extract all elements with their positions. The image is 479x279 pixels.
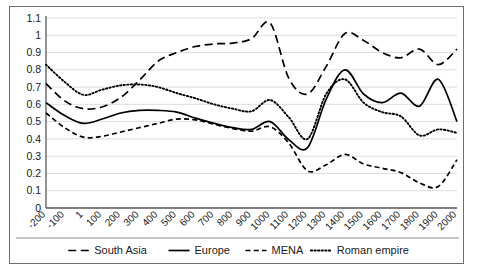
x-tick-label: 1300 bbox=[304, 208, 328, 232]
series-line-mena bbox=[46, 113, 457, 188]
x-tick-label: 1600 bbox=[360, 208, 384, 232]
y-tick-label: 0.5 bbox=[26, 115, 41, 127]
x-tick-label: 700 bbox=[196, 208, 216, 228]
legend-label-europe[interactable]: Europe bbox=[195, 244, 230, 256]
x-tick-label: 800 bbox=[215, 208, 235, 228]
x-tick-label: -200 bbox=[25, 208, 47, 230]
plot-area: 00.10.20.30.40.50.60.70.80.911.1 -200-10… bbox=[10, 7, 465, 265]
y-tick-label: 1.1 bbox=[26, 12, 41, 24]
x-tick-label: 1700 bbox=[379, 208, 403, 232]
x-tick-label: 300 bbox=[121, 208, 141, 228]
y-tick-label: 0.6 bbox=[26, 98, 41, 110]
chart-container: 00.10.20.30.40.50.60.70.80.911.1 -200-10… bbox=[0, 0, 479, 279]
y-tick-label: 0.7 bbox=[26, 81, 41, 93]
y-tick-label: 0.1 bbox=[26, 184, 41, 196]
y-tick-label: 0.9 bbox=[26, 46, 41, 58]
x-tick-label: 1400 bbox=[323, 208, 347, 232]
line-chart: 00.10.20.30.40.50.60.70.80.911.1 -200-10… bbox=[10, 7, 465, 265]
x-axis-tick-labels: -200-10011002003004005006007008009001000… bbox=[25, 208, 458, 232]
x-tick-label: 1800 bbox=[398, 208, 422, 232]
y-tick-label: 0.3 bbox=[26, 150, 41, 162]
y-axis-tick-labels: 00.10.20.30.40.50.60.70.80.911.1 bbox=[26, 12, 41, 214]
x-tick-label: 100 bbox=[84, 208, 104, 228]
x-tick-label: 500 bbox=[159, 208, 179, 228]
x-tick-label: 2000 bbox=[435, 208, 459, 232]
gridlines bbox=[46, 18, 457, 208]
x-tick-label: 1500 bbox=[341, 208, 365, 232]
series-line-europe bbox=[46, 70, 457, 150]
x-tick-label: 1200 bbox=[285, 208, 309, 232]
legend-label-mena[interactable]: MENA bbox=[272, 244, 304, 256]
x-tick-label: 400 bbox=[140, 208, 160, 228]
x-tick-label: -100 bbox=[44, 208, 66, 230]
series-line-roman-empire bbox=[46, 65, 457, 140]
chart-legend: South AsiaEuropeMENARoman empire bbox=[16, 238, 459, 256]
data-series bbox=[46, 22, 457, 188]
y-tick-label: 0.8 bbox=[26, 63, 41, 75]
x-tick-label: 1900 bbox=[416, 208, 440, 232]
y-tick-label: 0.2 bbox=[26, 167, 41, 179]
x-tick-label: 200 bbox=[103, 208, 123, 228]
y-tick-label: 1 bbox=[35, 29, 41, 41]
x-tick-label: 600 bbox=[177, 208, 197, 228]
chart-frame: 00.10.20.30.40.50.60.70.80.911.1 -200-10… bbox=[9, 6, 464, 264]
x-tick-label: 1 bbox=[73, 208, 85, 220]
legend-label-roman-empire[interactable]: Roman empire bbox=[337, 244, 409, 256]
y-tick-label: 0.4 bbox=[26, 133, 41, 145]
x-tick-label: 1100 bbox=[267, 208, 290, 231]
x-tick-label: 1000 bbox=[248, 208, 272, 232]
legend-label-south-asia[interactable]: South Asia bbox=[94, 244, 147, 256]
